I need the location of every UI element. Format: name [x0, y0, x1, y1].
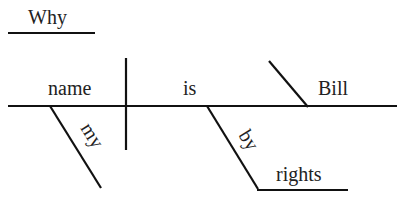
sentence-diagram: Why name my is Bill by rights	[0, 0, 398, 208]
word-my: my	[76, 118, 109, 152]
word-is: is	[183, 77, 197, 99]
word-name: name	[48, 77, 91, 99]
word-rights: rights	[276, 163, 322, 186]
word-why: Why	[28, 6, 67, 29]
word-bill: Bill	[318, 77, 348, 99]
complement-line	[269, 61, 308, 107]
word-by: by	[234, 125, 264, 154]
